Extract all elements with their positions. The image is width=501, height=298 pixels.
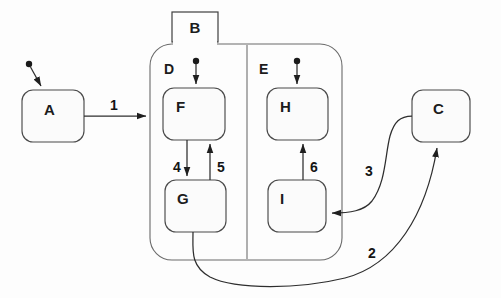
state-f-rect	[163, 88, 225, 140]
transition-1[interactable]: 1	[84, 97, 146, 116]
state-c-label: C	[433, 100, 444, 117]
initial-dot-a	[26, 61, 32, 67]
state-f[interactable]: F	[163, 88, 225, 140]
transition-3[interactable]: 3	[332, 116, 412, 213]
state-i[interactable]: I	[268, 180, 326, 232]
statechart-diagram: B D E A C F G H	[0, 0, 501, 298]
initial-dot-d	[193, 58, 199, 64]
state-a-label: A	[44, 101, 55, 118]
transition-1-label: 1	[110, 97, 118, 113]
state-f-label: F	[176, 98, 185, 115]
transition-4-label: 4	[173, 159, 181, 175]
initial-dot-e	[294, 58, 300, 64]
state-g-label: G	[177, 190, 189, 207]
state-h[interactable]: H	[267, 88, 328, 140]
region-d-label: D	[164, 61, 174, 77]
state-c[interactable]: C	[412, 90, 470, 142]
initial-pseudostate-a[interactable]	[26, 61, 41, 86]
transition-3-label: 3	[365, 163, 373, 179]
state-h-rect	[267, 88, 328, 140]
state-b-name-tab[interactable]: B	[172, 12, 218, 45]
transition-6-label: 6	[310, 159, 318, 175]
state-a[interactable]: A	[22, 90, 84, 142]
state-h-label: H	[280, 98, 291, 115]
transition-2-label: 2	[368, 245, 376, 261]
statechart-canvas: B D E A C F G H	[0, 0, 501, 298]
state-g-rect	[165, 180, 226, 232]
state-g[interactable]: G	[165, 180, 226, 232]
region-e-label: E	[259, 61, 268, 77]
state-b-tab-joint	[173, 41, 217, 45]
state-i-rect	[268, 180, 326, 232]
transition-5-label: 5	[217, 159, 225, 175]
state-i-label: I	[280, 190, 284, 207]
edge-init-to-a	[31, 67, 42, 86]
state-b-label: B	[190, 19, 201, 36]
